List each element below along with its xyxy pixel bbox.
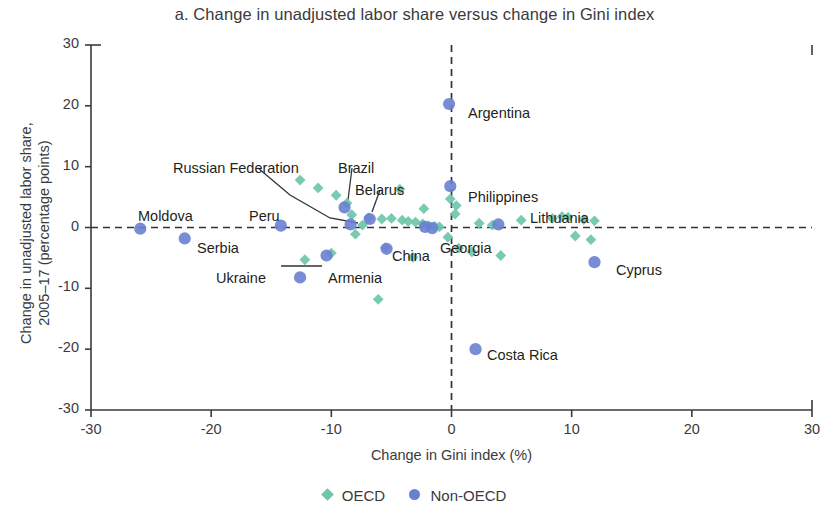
data-point-oecd	[376, 214, 387, 225]
data-point-oecd	[589, 215, 600, 226]
data-point-oecd	[331, 190, 342, 201]
data-points-group	[134, 98, 600, 355]
data-point-oecd	[516, 215, 527, 226]
legend-item-oecd: OECD	[323, 485, 386, 504]
data-point-non-oecd	[469, 343, 481, 355]
y-tick-label: 20	[39, 96, 79, 112]
data-point-oecd	[295, 175, 306, 186]
data-point-non-oecd	[179, 232, 191, 244]
point-label-cyprus: Cyprus	[616, 262, 662, 278]
diamond-marker-icon	[321, 488, 334, 501]
x-tick-label: 10	[547, 421, 597, 437]
point-label-lithuania: Lithuania	[530, 210, 589, 226]
x-tick-label: -10	[306, 421, 356, 437]
data-point-non-oecd	[134, 223, 146, 235]
point-label-russian-federation: Russian Federation	[173, 160, 299, 176]
data-point-non-oecd	[320, 249, 332, 261]
point-label-ukraine: Ukraine	[216, 270, 266, 286]
point-label-georgia: Georgia	[440, 240, 492, 256]
circle-marker-icon	[409, 489, 420, 500]
data-point-non-oecd	[381, 243, 393, 255]
data-point-non-oecd	[444, 180, 456, 192]
chart-legend: OECD Non-OECD	[0, 484, 829, 503]
data-point-non-oecd	[338, 201, 350, 213]
x-tick-label: 0	[427, 421, 477, 437]
data-point-non-oecd	[364, 213, 376, 225]
point-label-philippines: Philippines	[468, 189, 538, 205]
point-label-china: China	[392, 248, 430, 264]
point-label-brazil: Brazil	[338, 160, 374, 176]
x-tick-label: -20	[186, 421, 236, 437]
y-tick-label: 10	[39, 157, 79, 173]
y-tick-label: -30	[39, 400, 79, 416]
point-label-argentina: Argentina	[468, 105, 530, 121]
y-tick-label: 0	[39, 218, 79, 234]
y-tick-label: -20	[39, 339, 79, 355]
data-point-non-oecd	[492, 218, 504, 230]
data-point-non-oecd	[443, 98, 455, 110]
data-point-oecd	[386, 213, 397, 224]
data-point-oecd	[585, 234, 596, 245]
point-label-moldova: Moldova	[138, 208, 193, 224]
y-tick-label: -10	[39, 278, 79, 294]
legend-label-non-oecd: Non-OECD	[431, 486, 507, 503]
legend-label-oecd: OECD	[342, 486, 385, 503]
legend-item-non-oecd: Non-OECD	[409, 485, 506, 504]
x-tick-label: 30	[787, 421, 829, 437]
point-label-armenia: Armenia	[328, 270, 382, 286]
data-point-oecd	[313, 183, 324, 194]
point-label-costa-rica: Costa Rica	[487, 347, 558, 363]
data-point-oecd	[373, 294, 384, 305]
point-label-peru: Peru	[249, 208, 280, 224]
data-point-oecd	[570, 231, 581, 242]
point-label-serbia: Serbia	[197, 240, 239, 256]
data-point-oecd	[418, 203, 429, 214]
data-point-non-oecd	[294, 271, 306, 283]
y-tick-label: 30	[39, 35, 79, 51]
data-point-oecd	[299, 254, 310, 265]
point-label-belarus: Belarus	[355, 182, 404, 198]
data-point-non-oecd	[426, 222, 438, 234]
data-point-non-oecd	[344, 218, 356, 230]
data-point-non-oecd	[588, 256, 600, 268]
scatter-chart-figure: a. Change in unadjusted labor share vers…	[0, 0, 829, 513]
data-point-oecd	[495, 250, 506, 261]
x-tick-label: -30	[66, 421, 116, 437]
x-tick-label: 20	[667, 421, 717, 437]
